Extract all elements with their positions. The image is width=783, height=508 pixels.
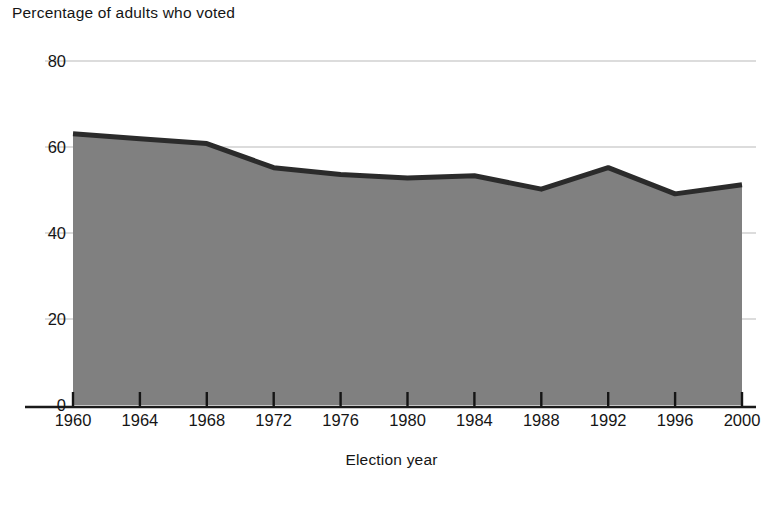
y-tick-label: 80 (10, 52, 66, 71)
area-fill (73, 134, 742, 405)
chart-plot-area (0, 0, 783, 508)
x-tick-label: 2000 (724, 411, 761, 430)
x-tick-label: 1984 (456, 411, 493, 430)
chart-figure: Percentage of adults who voted 806040200… (0, 0, 783, 508)
x-tick-label: 1964 (122, 411, 159, 430)
x-tick-label: 1972 (255, 411, 292, 430)
y-tick-label: 20 (10, 310, 66, 329)
y-tick-label: 40 (10, 224, 66, 243)
area-series-group (73, 134, 742, 405)
y-tick-labels: 806040200 (0, 0, 66, 508)
x-tick-label: 1976 (322, 411, 359, 430)
x-tick-label: 1980 (389, 411, 426, 430)
y-tick-label: 60 (10, 138, 66, 157)
x-tick-label: 1996 (657, 411, 694, 430)
x-tick-label: 1992 (590, 411, 627, 430)
x-axis-title: Election year (0, 451, 783, 469)
x-tick-label: 1968 (188, 411, 225, 430)
x-tick-label: 1988 (523, 411, 560, 430)
x-tick-label: 1960 (55, 411, 92, 430)
